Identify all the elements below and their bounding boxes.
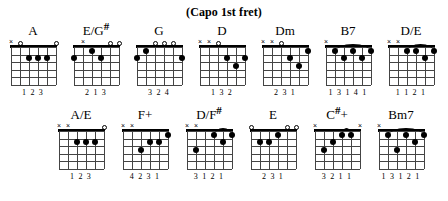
string-line <box>333 131 334 169</box>
chord-row-1: A1 2 3E/G#2 1 3G3 2 4D1 3 2Dm2 3 1B71 3 … <box>0 24 448 102</box>
fingering-numbers: 1 3 2 <box>191 88 253 97</box>
string-line <box>95 131 96 169</box>
fret-line <box>389 85 434 86</box>
chord-diagram: E2 3 1 <box>242 108 304 186</box>
fret-line <box>326 77 371 78</box>
finger-dot <box>224 55 230 61</box>
fret-line <box>200 55 245 56</box>
fret-line <box>200 85 245 86</box>
finger-dot <box>431 48 437 54</box>
fret-line <box>137 85 182 86</box>
fret-line <box>123 169 168 170</box>
finger-dot <box>339 132 345 138</box>
string-line <box>20 47 21 85</box>
fret-line <box>200 77 245 78</box>
finger-dot <box>330 139 336 145</box>
chord-name: D/E <box>380 24 442 38</box>
fretboard-grid <box>123 131 168 169</box>
finger-dot <box>134 55 140 61</box>
chord-name: A <box>2 24 64 38</box>
fret-line <box>315 139 360 140</box>
string-line <box>164 47 165 85</box>
fret-line <box>315 161 360 162</box>
chord-diagram: A/E1 2 3 <box>50 108 112 186</box>
fret-line <box>74 62 119 63</box>
finger-dot <box>179 55 185 61</box>
page-title: (Capo 1st fret) <box>0 5 448 20</box>
fingering-numbers: 1 1 2 1 <box>380 88 442 97</box>
fret-line <box>123 131 168 132</box>
finger-dot <box>44 55 50 61</box>
fretboard-grid <box>200 47 245 85</box>
finger-dot <box>165 132 171 138</box>
fretboard-grid <box>251 131 296 169</box>
fret-line <box>251 154 296 155</box>
finger-dot <box>138 147 144 153</box>
fret-line <box>123 146 168 147</box>
fretboard-grid <box>326 47 371 85</box>
finger-dot <box>147 139 153 145</box>
string-line <box>260 131 261 169</box>
chord-name: E <box>242 108 304 122</box>
string-line <box>173 47 174 85</box>
chord-name: F+ <box>114 108 176 122</box>
fret-line <box>187 169 232 170</box>
fret-line <box>59 131 104 132</box>
fingering-numbers: 2 1 3 <box>65 88 127 97</box>
finger-dot <box>26 55 32 61</box>
finger-dot <box>89 48 95 54</box>
string-line <box>11 47 12 85</box>
fret-line <box>379 169 424 170</box>
string-line <box>38 47 39 85</box>
finger-dot <box>332 48 338 54</box>
finger-dot <box>71 55 77 61</box>
chord-diagram: A1 2 3 <box>2 24 64 102</box>
string-line <box>200 47 201 85</box>
chord-name: B7 <box>317 24 379 38</box>
fret-line <box>389 70 434 71</box>
finger-dot <box>341 55 347 61</box>
finger-dot <box>421 132 427 138</box>
string-line <box>269 131 270 169</box>
string-line <box>251 131 252 169</box>
string-line <box>155 47 156 85</box>
string-line <box>415 131 416 169</box>
chord-name: E/G# <box>65 24 127 38</box>
string-line <box>360 131 361 169</box>
string-line <box>187 131 188 169</box>
finger-dot <box>211 132 217 138</box>
chord-diagram: E/G#2 1 3 <box>65 24 127 102</box>
finger-dot <box>413 48 419 54</box>
fret-line <box>11 62 56 63</box>
finger-dot <box>156 139 162 145</box>
fret-line <box>137 55 182 56</box>
sharp-symbol: # <box>335 104 341 116</box>
string-line <box>123 131 124 169</box>
chord-diagram: B71 3 1 4 1 <box>317 24 379 102</box>
string-line <box>74 47 75 85</box>
finger-dot <box>193 147 199 153</box>
chord-name: C#+ <box>306 108 368 122</box>
fingering-numbers: 1 2 3 <box>50 172 112 181</box>
finger-dot <box>385 132 391 138</box>
fingering-numbers: 3 1 2 1 <box>178 172 240 181</box>
fingering-numbers: 3 2 1 1 <box>306 172 368 181</box>
fingering-numbers: 2 3 1 <box>254 88 316 97</box>
string-line <box>227 47 228 85</box>
fretboard-grid <box>315 131 360 169</box>
finger-dot <box>404 48 410 54</box>
string-line <box>218 47 219 85</box>
finger-dot <box>74 139 80 145</box>
finger-dot <box>229 132 235 138</box>
fret-line <box>379 154 424 155</box>
fret-line <box>315 169 360 170</box>
finger-dot <box>394 147 400 153</box>
fret-line <box>74 70 119 71</box>
fretboard-grid <box>187 131 232 169</box>
fret-line <box>326 85 371 86</box>
fretboard-grid <box>11 47 56 85</box>
string-line <box>389 47 390 85</box>
chord-diagram: D/E1 1 2 1 <box>380 24 442 102</box>
fret-line <box>263 85 308 86</box>
chord-name: Bm7 <box>370 108 432 122</box>
